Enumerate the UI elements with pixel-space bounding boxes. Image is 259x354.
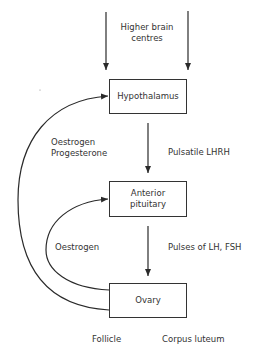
- ovary-box: Ovary: [109, 283, 187, 318]
- oestrogen-progesterone-label: Oestrogen Progesterone: [51, 137, 107, 159]
- oestrogen-label: Oestrogen: [55, 242, 99, 253]
- corpus-luteum-label: Corpus luteum: [162, 334, 225, 345]
- oestrogen-line: Oestrogen: [51, 137, 107, 148]
- higher-brain-label: Higher brain centres: [120, 22, 174, 44]
- lh-fsh-label: Pulses of LH, FSH: [168, 242, 241, 253]
- anterior-pituitary-box: Anterior pituitary: [109, 181, 187, 217]
- ovary-label: Ovary: [135, 295, 160, 306]
- follicle-label: Follicle: [92, 334, 121, 345]
- hypothalamus-box: Hypothalamus: [109, 79, 187, 114]
- speck: [39, 89, 40, 90]
- higher-brain-line2: centres: [120, 33, 174, 44]
- lhrh-label: Pulsatile LHRH: [168, 147, 230, 158]
- anterior-pituitary-line1: Anterior: [131, 188, 165, 199]
- higher-brain-line1: Higher brain: [120, 22, 174, 33]
- progesterone-line: Progesterone: [51, 148, 107, 159]
- hypothalamus-label: Hypothalamus: [117, 91, 179, 102]
- anterior-pituitary-line2: pituitary: [130, 199, 166, 210]
